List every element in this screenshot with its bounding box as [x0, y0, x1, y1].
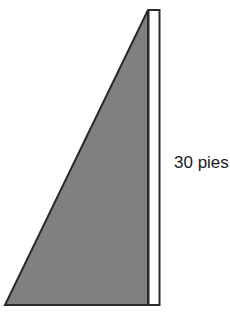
height-measure-bar — [149, 10, 160, 305]
height-measure-label: 30 pies — [174, 153, 229, 172]
geometry-figure: 30 pies — [0, 0, 230, 315]
